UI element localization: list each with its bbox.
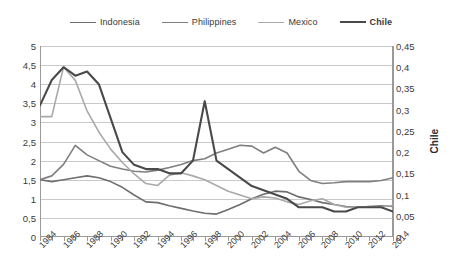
series-lines [40, 46, 393, 237]
y-axis-left-tick: 3 [31, 117, 36, 128]
legend-line-icon [340, 21, 366, 23]
legend-item-label: Indonesia [100, 17, 140, 27]
right-axis-line [393, 46, 394, 237]
legend-item-chile[interactable]: Chile [340, 17, 393, 27]
y-axis-left-tick: 4 [31, 79, 36, 90]
y-axis-right-tick: 0,45 [396, 41, 415, 52]
legend-line-icon [70, 22, 96, 23]
y-axis-left-tick: 1,5 [23, 174, 36, 185]
legend-line-icon [258, 22, 284, 23]
y-axis-right-title: Chile [424, 46, 444, 237]
legend-item-mexico[interactable]: Mexico [258, 17, 317, 27]
y-axis-left-tick: 3,5 [23, 98, 36, 109]
y-axis-right-tick: 0,4 [396, 62, 409, 73]
y-axis-right-tick: 0,2 [396, 147, 409, 158]
legend-item-label: Mexico [288, 17, 317, 27]
plot-area [40, 46, 393, 237]
y-axis-left-tick: 2 [31, 155, 36, 166]
legend-item-label: Chile [370, 17, 393, 27]
y-axis-right-tick: 0,05 [396, 210, 415, 221]
chart-container: IndonesiaPhilippinesMexicoChile 00,511,5… [0, 0, 462, 279]
y-axis-left-tick: 4,5 [23, 60, 36, 71]
series-line-chile [40, 67, 393, 211]
y-axis-right-tick: 0,3 [396, 104, 409, 115]
y-axis-left-tick: 1 [31, 193, 36, 204]
y-axis-right-title-label: Chile [429, 129, 440, 153]
y-axis-right-tick: 0,1 [396, 189, 409, 200]
legend-item-indonesia[interactable]: Indonesia [70, 17, 140, 27]
legend-item-label: Philippines [192, 17, 237, 27]
y-axis-left-tick: 2,5 [23, 136, 36, 147]
y-axis-left: 00,511,522,533,544,55 [0, 46, 36, 237]
y-axis-right-tick: 0,25 [396, 125, 415, 136]
chart-legend: IndonesiaPhilippinesMexicoChile [0, 12, 462, 32]
legend-line-icon [162, 22, 188, 23]
x-axis-labels: 1984198619881990199219941996199820002002… [0, 243, 462, 279]
y-axis-left-tick: 0 [31, 232, 36, 243]
y-axis-right-tick: 0,15 [396, 168, 415, 179]
series-line-philippines [40, 145, 393, 183]
series-line-mexico [40, 67, 393, 207]
y-axis-right-tick: 0,35 [396, 83, 415, 94]
y-axis-left-tick: 0,5 [23, 212, 36, 223]
y-axis-left-tick: 5 [31, 41, 36, 52]
legend-item-philippines[interactable]: Philippines [162, 17, 237, 27]
